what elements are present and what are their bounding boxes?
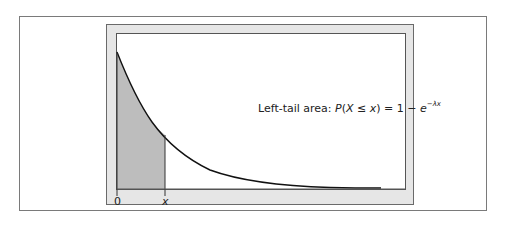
left-tail-annotation: Left-tail area: P(X ≤ x) = 1 − e−λx: [258, 100, 441, 115]
tick-label-zero: 0: [114, 195, 121, 208]
exponential-density-plot: [0, 0, 508, 236]
tick-label-x: x: [162, 195, 169, 208]
